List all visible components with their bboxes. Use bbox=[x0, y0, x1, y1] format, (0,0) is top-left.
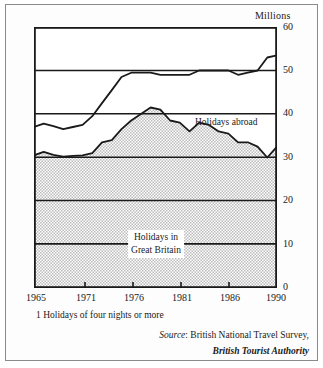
x-tick-label-1986: 1986 bbox=[220, 292, 240, 303]
x-tick-label-1990: 1990 bbox=[266, 292, 286, 303]
y-tick-label-60: 60 bbox=[283, 22, 293, 32]
x-tick-label-1976: 1976 bbox=[124, 292, 144, 303]
source-prefix: Source bbox=[159, 330, 185, 340]
y-tick-label-20: 20 bbox=[283, 195, 293, 205]
y-axis-units-label: Millions bbox=[255, 10, 291, 21]
y-tick-label-30: 30 bbox=[283, 152, 293, 162]
x-tick-label-1965: 1965 bbox=[26, 292, 46, 303]
x-tick-label-1971: 1971 bbox=[76, 292, 96, 303]
plot-area: Holidays abroad Holidays in Great Britai… bbox=[34, 27, 277, 288]
footnote-text: 1 Holidays of four nights or more bbox=[36, 310, 164, 320]
series-label-gb-line1: Holidays in bbox=[131, 231, 181, 244]
y-tick-label-0: 0 bbox=[283, 282, 288, 292]
source-rest: : British National Travel Survey, bbox=[185, 330, 309, 340]
series-label-holidays-abroad: Holidays abroad bbox=[195, 117, 258, 127]
series-label-gb-line2: Great Britain bbox=[131, 244, 181, 257]
source-line-2: British Tourist Authority bbox=[213, 346, 309, 356]
figure-container: Millions bbox=[0, 0, 323, 368]
x-tick-label-1981: 1981 bbox=[172, 292, 192, 303]
series-label-holidays-great-britain: Holidays in Great Britain bbox=[128, 230, 184, 258]
y-tick-label-50: 50 bbox=[283, 65, 293, 75]
y-tick-label-40: 40 bbox=[283, 108, 293, 118]
y-tick-label-10: 10 bbox=[283, 239, 293, 249]
source-line-1: Source: British National Travel Survey, bbox=[159, 330, 309, 340]
